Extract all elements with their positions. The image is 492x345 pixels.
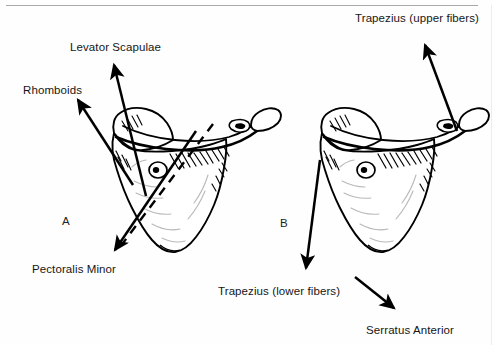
label-serratus-anterior: Serratus Anterior xyxy=(366,324,454,336)
trapezius-lower-fibers-arrow xyxy=(306,160,320,268)
label-pectoralis-minor: Pectoralis Minor xyxy=(32,263,116,275)
panel-b-scapula-drawing xyxy=(321,108,489,252)
trapezius-upper-fibers-arrow xyxy=(425,45,457,131)
label-levator-scapulae: Levator Scapulae xyxy=(70,41,161,53)
anatomical-figure: Levator Scapulae Rhomboids Pectoralis Mi… xyxy=(0,0,492,345)
panel-letter-a: A xyxy=(62,215,70,227)
panel-letter-b: B xyxy=(280,217,288,229)
label-trapezius-lower-fibers: Trapezius (lower fibers) xyxy=(218,285,340,297)
label-trapezius-upper-fibers: Trapezius (upper fibers) xyxy=(355,12,479,24)
serratus-anterior-arrow xyxy=(355,277,394,308)
panel-a-scapula-drawing xyxy=(113,108,281,252)
label-rhomboids: Rhomboids xyxy=(23,84,82,96)
